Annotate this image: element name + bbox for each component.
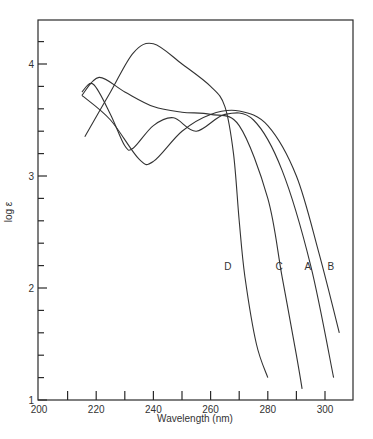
plot-frame bbox=[38, 20, 353, 400]
series-labels: ABCD bbox=[224, 261, 334, 272]
curve-a bbox=[82, 83, 334, 377]
absorption-spectrum-chart: 2002202402602803001234 ABCD Wavelength (… bbox=[0, 0, 373, 439]
x-axis-label: Wavelength (nm) bbox=[157, 413, 233, 424]
axis-ticks: 2002202402602803001234 bbox=[28, 42, 333, 415]
curve-label-b: B bbox=[327, 261, 334, 272]
curve-label-a: A bbox=[305, 261, 312, 272]
curve-d bbox=[85, 43, 268, 377]
y-axis-label: log ε bbox=[3, 201, 14, 222]
curve-label-d: D bbox=[224, 261, 231, 272]
x-tick-label: 300 bbox=[317, 404, 334, 415]
y-tick-label: 1 bbox=[28, 395, 34, 406]
x-tick-label: 220 bbox=[88, 404, 105, 415]
x-tick-label: 280 bbox=[259, 404, 276, 415]
curve-label-c: C bbox=[276, 261, 283, 272]
y-tick-label: 4 bbox=[28, 59, 34, 70]
y-tick-label: 3 bbox=[28, 171, 34, 182]
plot-border bbox=[38, 20, 353, 400]
curve-b bbox=[82, 95, 339, 332]
series-curves bbox=[82, 43, 339, 389]
y-tick-label: 2 bbox=[28, 283, 34, 294]
